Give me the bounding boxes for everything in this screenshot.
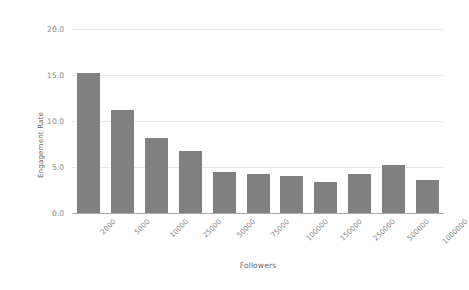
x-tick-label: 25000	[201, 217, 224, 240]
x-tick-label: 150000	[338, 217, 364, 243]
x-tick-label-text: 10000	[167, 217, 190, 240]
x-tick-label: 50000	[235, 217, 258, 240]
plot-area	[72, 29, 444, 213]
bar[interactable]	[416, 180, 439, 213]
bar[interactable]	[213, 172, 236, 213]
y-tick-label: 15.0	[36, 71, 64, 80]
x-tick-label: 5000	[132, 217, 151, 236]
bar[interactable]	[145, 138, 168, 213]
y-tick-label: 10.0	[36, 117, 64, 126]
x-tick-label-text: 2000	[98, 217, 117, 236]
x-axis-title: Followers	[72, 261, 444, 270]
bar[interactable]	[348, 174, 371, 213]
x-tick-label: 10000	[167, 217, 190, 240]
x-tick-label-text: 75000	[269, 217, 292, 240]
bar[interactable]	[280, 176, 303, 213]
y-tick-label: 0.0	[36, 209, 64, 218]
x-tick-label: 75000	[269, 217, 292, 240]
x-tick-label-text: 5000	[132, 217, 151, 236]
bar[interactable]	[247, 174, 270, 213]
x-tick-label-text: 50000	[235, 217, 258, 240]
x-tick-label: 2000	[98, 217, 117, 236]
bar[interactable]	[111, 110, 134, 213]
gridline	[72, 75, 444, 76]
bar[interactable]	[382, 165, 405, 213]
x-tick-label-text: 100000	[304, 217, 330, 243]
y-tick-label: 5.0	[36, 163, 64, 172]
bar[interactable]	[179, 151, 202, 213]
x-tick-label-text: 25000	[201, 217, 224, 240]
x-tick-label-text: 250000	[371, 217, 397, 243]
x-axis-line	[72, 213, 444, 214]
y-tick-label: 20.0	[36, 25, 64, 34]
x-tick-label: 1000000	[440, 217, 469, 246]
bar[interactable]	[314, 182, 337, 213]
gridline	[72, 29, 444, 30]
x-tick-label-text: 1000000	[440, 217, 469, 246]
y-axis-tick-labels: 0.05.010.015.020.0	[36, 0, 64, 290]
x-tick-label-text: 500000	[405, 217, 431, 243]
bar[interactable]	[77, 73, 100, 213]
x-tick-label: 100000	[304, 217, 330, 243]
x-tick-label-text: 150000	[338, 217, 364, 243]
x-tick-label: 250000	[371, 217, 397, 243]
x-tick-label: 500000	[405, 217, 431, 243]
